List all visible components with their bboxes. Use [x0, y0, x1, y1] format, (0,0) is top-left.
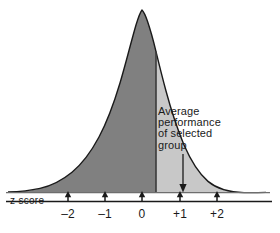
tick-label-zero: 0: [127, 208, 157, 220]
z-score-axis-label: z score: [10, 196, 44, 206]
normal-distribution-figure: z score –2 –1 0 +1 +2 Average performanc…: [0, 0, 280, 233]
unselected-area-region: [8, 10, 156, 192]
tick-label-plus-1: +1: [165, 208, 195, 220]
annotation-text-block: Average performance of selected group: [158, 106, 232, 151]
tick-label-plus-2: +2: [202, 208, 232, 220]
tick-label-minus-1: –1: [90, 208, 120, 220]
annotation-line-3: of selected: [158, 128, 232, 139]
tick-label-minus-2: –2: [53, 208, 83, 220]
annotation-line-4: group: [158, 140, 232, 151]
